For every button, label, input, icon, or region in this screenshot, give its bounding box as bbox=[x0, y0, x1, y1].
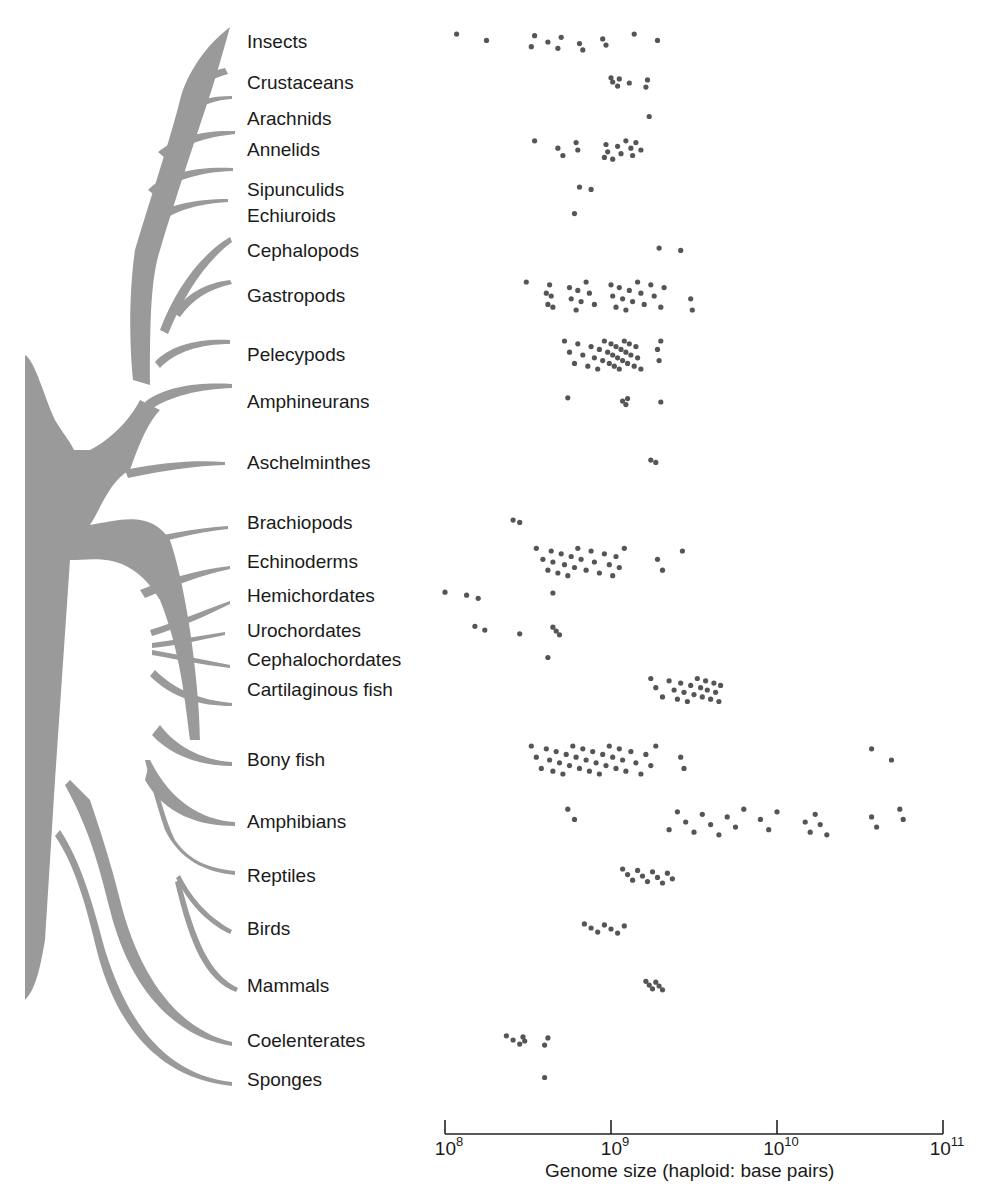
data-point bbox=[602, 922, 607, 927]
data-point bbox=[575, 546, 580, 551]
data-point bbox=[610, 157, 615, 162]
data-point bbox=[575, 288, 580, 293]
data-point bbox=[615, 355, 620, 360]
data-point bbox=[695, 676, 700, 681]
data-point bbox=[633, 140, 638, 145]
data-point bbox=[545, 39, 550, 44]
data-point bbox=[550, 769, 555, 774]
data-point bbox=[584, 279, 589, 284]
data-point bbox=[680, 548, 685, 553]
data-point bbox=[824, 832, 829, 837]
data-point bbox=[580, 47, 585, 52]
data-point bbox=[675, 809, 680, 814]
data-point bbox=[617, 366, 622, 371]
data-point bbox=[534, 546, 539, 551]
data-point bbox=[555, 570, 560, 575]
data-point bbox=[454, 31, 459, 36]
data-point bbox=[587, 291, 592, 296]
data-point bbox=[620, 757, 625, 762]
data-point bbox=[643, 752, 648, 757]
data-point bbox=[534, 755, 539, 760]
data-point bbox=[625, 361, 630, 366]
data-point bbox=[539, 766, 544, 771]
data-point bbox=[592, 302, 597, 307]
data-point bbox=[595, 366, 600, 371]
data-point bbox=[622, 546, 627, 551]
data-point bbox=[549, 293, 554, 298]
data-point bbox=[733, 825, 738, 830]
data-point bbox=[542, 1043, 547, 1048]
data-point bbox=[657, 358, 662, 363]
data-point bbox=[577, 766, 582, 771]
data-points bbox=[442, 31, 905, 1080]
data-point bbox=[600, 752, 605, 757]
data-point bbox=[774, 809, 779, 814]
data-point bbox=[665, 871, 670, 876]
x-tick-label: 1011 bbox=[930, 1138, 965, 1160]
data-point bbox=[582, 921, 587, 926]
data-point bbox=[572, 817, 577, 822]
data-point bbox=[484, 38, 489, 43]
data-point bbox=[657, 246, 662, 251]
data-point bbox=[627, 341, 632, 346]
data-point bbox=[547, 757, 552, 762]
data-point bbox=[685, 699, 690, 704]
data-point bbox=[642, 302, 647, 307]
data-point bbox=[808, 830, 813, 835]
data-point bbox=[628, 146, 633, 151]
data-point bbox=[585, 364, 590, 369]
data-point bbox=[602, 338, 607, 343]
data-point bbox=[618, 151, 623, 156]
data-point bbox=[648, 458, 653, 463]
data-point bbox=[630, 299, 635, 304]
data-point bbox=[691, 830, 696, 835]
data-point bbox=[542, 1075, 547, 1080]
data-point bbox=[758, 817, 763, 822]
data-point bbox=[510, 1037, 515, 1042]
data-point bbox=[608, 282, 613, 287]
data-point bbox=[645, 879, 650, 884]
data-point bbox=[638, 291, 643, 296]
data-point bbox=[567, 350, 572, 355]
data-point bbox=[681, 766, 686, 771]
data-point bbox=[612, 364, 617, 369]
data-point bbox=[579, 299, 584, 304]
data-point bbox=[504, 1033, 509, 1038]
data-point bbox=[658, 399, 663, 404]
data-point bbox=[522, 1038, 527, 1043]
data-point bbox=[544, 291, 549, 296]
data-point bbox=[628, 352, 633, 357]
data-point bbox=[603, 43, 608, 48]
data-point bbox=[645, 77, 650, 82]
data-point bbox=[683, 819, 688, 824]
data-point bbox=[766, 827, 771, 832]
data-point bbox=[577, 185, 582, 190]
data-point bbox=[635, 868, 640, 873]
data-point bbox=[698, 685, 703, 690]
data-point bbox=[592, 355, 597, 360]
data-point bbox=[610, 79, 615, 84]
data-point bbox=[574, 307, 579, 312]
data-point bbox=[635, 355, 640, 360]
data-point bbox=[590, 749, 595, 754]
data-point bbox=[555, 146, 560, 151]
data-point bbox=[632, 31, 637, 36]
data-point bbox=[635, 279, 640, 284]
data-point bbox=[560, 153, 565, 158]
data-point bbox=[510, 518, 515, 523]
data-point bbox=[655, 347, 660, 352]
data-point bbox=[608, 341, 613, 346]
data-point bbox=[648, 763, 653, 768]
data-point bbox=[577, 41, 582, 46]
data-point bbox=[594, 760, 599, 765]
data-point bbox=[725, 814, 730, 819]
data-point bbox=[550, 590, 555, 595]
data-point bbox=[653, 743, 658, 748]
data-point bbox=[716, 699, 721, 704]
data-point bbox=[610, 573, 615, 578]
data-point bbox=[540, 557, 545, 562]
data-point bbox=[574, 755, 579, 760]
data-point bbox=[688, 296, 693, 301]
data-point bbox=[472, 624, 477, 629]
data-point bbox=[638, 366, 643, 371]
